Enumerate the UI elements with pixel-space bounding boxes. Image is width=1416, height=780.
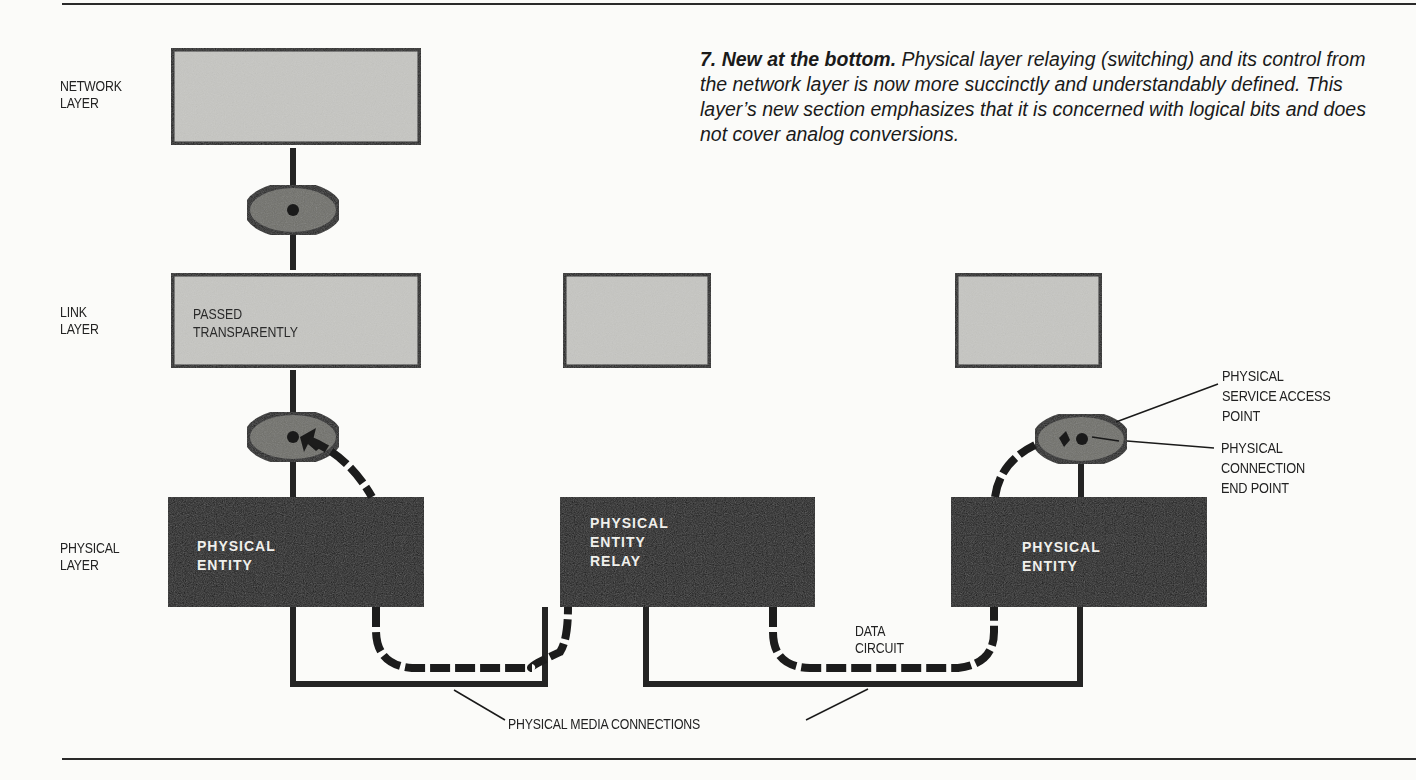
link-layer-box-middle (563, 273, 711, 368)
cep-annotation: PHYSICAL CONNECTION END POINT (1221, 438, 1305, 498)
physical-entity-left-label: PHYSICAL ENTITY (197, 537, 276, 575)
network-layer-box (171, 48, 421, 145)
network-layer-label: NETWORK LAYER (60, 78, 122, 112)
physical-media-connection-lines (293, 607, 1080, 684)
caption-heading: 7. New at the bottom. (700, 48, 896, 70)
physical-layer-label: PHYSICAL LAYER (60, 540, 120, 574)
link-box-passed-transparently: PASSED TRANSPARENTLY (193, 305, 298, 341)
link-layer-box-right (955, 273, 1102, 368)
physical-sap-left (247, 412, 339, 462)
data-circuit-label: DATA CIRCUIT (855, 623, 904, 657)
figure-caption: 7. New at the bottom. Physical layer rel… (700, 47, 1396, 147)
sap-endpoint-dot (287, 204, 299, 216)
physical-media-connections-label: PHYSICAL MEDIA CONNECTIONS (508, 716, 700, 733)
link-layer-label: LINK LAYER (60, 304, 99, 338)
physical-entity-right-label: PHYSICAL ENTITY (1022, 538, 1101, 576)
physical-entity-relay-label: PHYSICAL ENTITY RELAY (590, 514, 669, 571)
network-sap-ellipse (247, 185, 339, 235)
physical-sap-right (1035, 414, 1127, 500)
sap-annotation: PHYSICAL SERVICE ACCESS POINT (1222, 366, 1331, 426)
